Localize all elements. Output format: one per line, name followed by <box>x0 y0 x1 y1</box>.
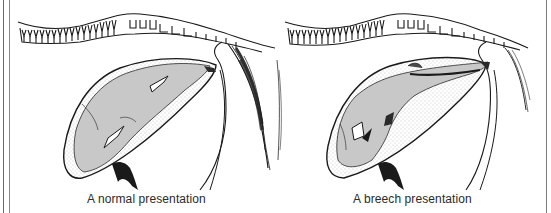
tail-edge-icon <box>277 60 281 160</box>
spine-icon <box>285 14 528 50</box>
breech-presentation-illustration <box>275 0 546 213</box>
tail-icon <box>228 44 270 170</box>
left-border-line <box>3 0 4 213</box>
normal-presentation-illustration <box>10 0 275 213</box>
tail-icon <box>505 48 530 112</box>
foal-icon <box>74 64 210 172</box>
figure-frame: A normal presentation <box>0 0 551 213</box>
panel-normal-presentation: A normal presentation <box>10 0 275 213</box>
panel-breech-presentation: A breech presentation <box>275 0 546 213</box>
leg-icon <box>378 162 404 190</box>
spine-icon <box>18 14 275 52</box>
leg-icon <box>112 162 138 190</box>
caption-normal-presentation: A normal presentation <box>87 192 206 206</box>
right-border-line <box>546 0 547 213</box>
caption-breech-presentation: A breech presentation <box>353 192 472 206</box>
